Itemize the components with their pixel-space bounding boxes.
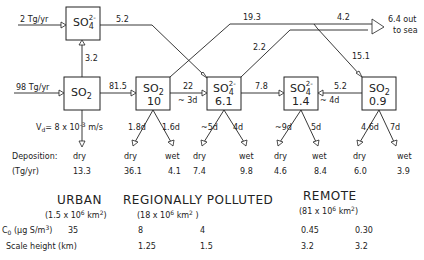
svg-text:81.5: 81.5: [109, 82, 127, 91]
svg-text:SO42-: SO42-: [73, 14, 96, 31]
svg-text:wet: wet: [312, 152, 327, 161]
svg-text:2 Tg/yr: 2 Tg/yr: [20, 15, 49, 24]
svg-text:dry: dry: [193, 152, 206, 161]
svg-text:to sea: to sea: [393, 26, 418, 35]
svg-text:98 Tg/yr: 98 Tg/yr: [16, 83, 50, 92]
svg-text:8: 8: [138, 226, 143, 235]
svg-text:13.3: 13.3: [73, 167, 91, 176]
box-remote-so2: SO2 0.9: [362, 77, 396, 110]
svg-text:7.8: 7.8: [255, 82, 268, 91]
box-urban-so2: SO2: [64, 77, 100, 110]
region-headers: URBAN (1.5 x 106 km2) REGIONALLY POLLUTE…: [45, 189, 358, 220]
svg-text:9.8: 9.8: [240, 167, 253, 176]
sulfur-cycle-diagram: SO42- SO2 SO2 10 SO42- 6.1 SO42- 1.4 SO2…: [0, 0, 424, 260]
svg-text:~ 3d: ~ 3d: [178, 96, 197, 105]
deposition-label: Deposition:: [12, 152, 57, 161]
svg-text:C0 (μg S/m3): C0 (μg S/m3): [2, 224, 52, 236]
svg-text:3.2: 3.2: [301, 242, 314, 251]
svg-text:~ 4d: ~ 4d: [320, 96, 339, 105]
svg-text:5d: 5d: [311, 123, 321, 132]
deposition-branches: Vd= 8 x 10-3 m/s 1.8d 1.6d ~5d 4d ~9d 5d…: [36, 110, 400, 147]
svg-text:4.1: 4.1: [168, 167, 181, 176]
svg-text:Scale height (km): Scale height (km): [6, 242, 77, 251]
svg-text:4.6d: 4.6d: [361, 123, 379, 132]
region-regionally-polluted: REGIONALLY POLLUTED: [123, 193, 273, 207]
svg-text:6.4 out: 6.4 out: [388, 15, 416, 24]
box-regional-so2: SO2 10: [136, 77, 170, 110]
svg-text:dry: dry: [73, 152, 86, 161]
svg-text:2.2: 2.2: [253, 43, 266, 52]
svg-text:1.25: 1.25: [138, 242, 156, 251]
svg-text:0.30: 0.30: [355, 226, 373, 235]
svg-text:7d: 7d: [390, 123, 400, 132]
svg-text:7.4: 7.4: [193, 167, 206, 176]
svg-text:4.2: 4.2: [337, 13, 350, 22]
svg-text:3.9: 3.9: [397, 167, 410, 176]
box-remote-sulfate: SO42- 1.4: [284, 77, 318, 110]
svg-text:8.4: 8.4: [314, 167, 327, 176]
svg-text:4.6: 4.6: [274, 167, 287, 176]
svg-text:36.1: 36.1: [124, 167, 142, 176]
svg-text:Vd= 8 x 10-3 m/s: Vd= 8 x 10-3 m/s: [36, 121, 103, 133]
svg-text:6.0: 6.0: [354, 167, 367, 176]
svg-text:1.6d: 1.6d: [162, 123, 180, 132]
svg-text:~9d: ~9d: [275, 123, 292, 132]
svg-text:dry: dry: [124, 152, 137, 161]
svg-text:(81 x 106 km2): (81 x 106 km2): [299, 205, 358, 216]
svg-text:4d: 4d: [233, 123, 243, 132]
svg-text:1.5: 1.5: [200, 242, 213, 251]
svg-text:15.1: 15.1: [352, 52, 370, 61]
svg-text:(1.5 x 106 km2): (1.5 x 106 km2): [45, 209, 107, 220]
svg-text:dry: dry: [353, 152, 366, 161]
svg-text:6.1: 6.1: [215, 95, 233, 108]
svg-text:3.2: 3.2: [85, 54, 98, 63]
svg-text:3.2: 3.2: [355, 242, 368, 251]
svg-text:5.2: 5.2: [116, 15, 129, 24]
deposition-table: Deposition: (Tg/yr) dry 13.3 dry 36.1 we…: [12, 152, 412, 176]
deposition-unit: (Tg/yr): [12, 167, 39, 176]
svg-text:5.2: 5.2: [334, 82, 347, 91]
svg-text:0.45: 0.45: [301, 226, 319, 235]
svg-text:(18 x 106 km2 ): (18 x 106 km2 ): [137, 209, 199, 220]
svg-text:22: 22: [183, 82, 193, 91]
svg-text:dry: dry: [274, 152, 287, 161]
svg-text:19.3: 19.3: [243, 13, 261, 22]
box-urban-sulfate: SO42-: [66, 7, 100, 40]
region-remote: REMOTE: [303, 189, 357, 203]
svg-text:1.4: 1.4: [292, 95, 310, 108]
svg-text:wet: wet: [239, 152, 254, 161]
svg-text:wet: wet: [397, 152, 412, 161]
svg-text:4: 4: [200, 226, 205, 235]
svg-text:35: 35: [68, 226, 78, 235]
box-regional-sulfate: SO42- 6.1: [207, 77, 241, 110]
svg-text:~5d: ~5d: [201, 123, 218, 132]
svg-text:1.8d: 1.8d: [128, 123, 146, 132]
concentration-table: C0 (μg S/m3) 35 8 4 0.45 0.30 Scale heig…: [2, 224, 373, 251]
region-urban: URBAN: [57, 193, 102, 207]
svg-text:wet: wet: [165, 152, 180, 161]
svg-text:0.9: 0.9: [369, 95, 387, 108]
svg-text:10: 10: [147, 95, 161, 108]
